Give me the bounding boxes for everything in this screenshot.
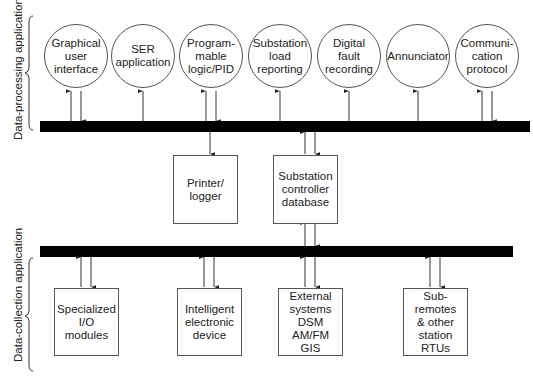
collection-section-label: Data-collection application xyxy=(12,228,24,362)
app-digital-fault-recording: Digital fault recording xyxy=(317,24,381,88)
app-annunciator: Annunciator xyxy=(386,24,450,88)
app-programmable-logic: Program- mable logic/PID xyxy=(179,24,243,88)
app-graphical-user-interface: Graphical user interface xyxy=(44,24,108,88)
sub-remotes-box: Sub-remotes & other station RTUs xyxy=(403,288,468,356)
app-substation-load-reporting: Substation load reporting xyxy=(248,24,312,88)
app-ser-application: SER application xyxy=(111,24,175,88)
external-systems-box: External systems DSM AM/FM GIS xyxy=(278,288,343,356)
specialized-io-modules-box: Specialized I/O modules xyxy=(54,288,119,356)
processing-bus xyxy=(40,121,530,132)
app-communication-protocol: Communi- cation protocol xyxy=(455,24,519,88)
collection-bus xyxy=(40,246,513,257)
printer-logger-box: Printer/ logger xyxy=(173,155,238,224)
intelligent-electronic-device-box: Intelligent electronic device xyxy=(177,288,242,356)
substation-controller-database-box: Substation controller database xyxy=(273,155,338,224)
processing-section-label: Data-processing application xyxy=(12,0,24,140)
